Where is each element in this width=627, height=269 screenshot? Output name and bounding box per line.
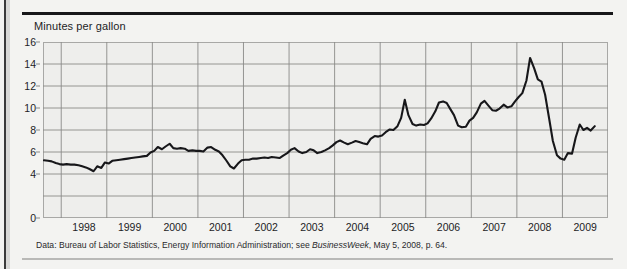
x-axis-tick-label-2006: 2006 [437,221,460,233]
y-axis-tick-label-16: 16 [24,36,36,48]
x-axis-labels: 1998199920002001200220032004200520062007… [43,221,608,237]
y-axis-tick-mark-12 [36,86,40,87]
grid-lines [43,42,608,218]
x-axis-tick-label-2004: 2004 [346,221,369,233]
bottom-rule-divider [22,258,613,260]
y-axis-tick-mark-0 [36,218,40,219]
chart-svg [43,42,608,218]
y-axis-tick-mark-8 [36,130,40,131]
y-axis-tick-mark-10 [36,108,40,109]
footnote-prefix: Data: Bureau of Labor Statistics, Energy… [36,240,312,250]
footnote-suffix: , May 5, 2008, p. 64. [369,240,447,250]
series-line-minutes-per-gallon [44,58,595,171]
y-axis-tick-label-10: 10 [24,102,36,114]
x-axis-tick-label-2007: 2007 [482,221,505,233]
x-axis-tick-label-2009: 2009 [574,221,597,233]
x-axis-tick-label-2008: 2008 [528,221,551,233]
y-axis-tick-label-12: 12 [24,80,36,92]
x-axis-tick-label-1999: 1999 [118,221,141,233]
x-axis-tick-label-2003: 2003 [300,221,323,233]
y-axis-labels: 046810121416 [0,42,40,218]
x-axis-tick-label-2000: 2000 [163,221,186,233]
y-axis-tick-mark-14 [36,64,40,65]
y-axis-tick-mark-4 [36,174,40,175]
y-axis-tick-mark-6 [36,152,40,153]
plot-area [43,42,608,218]
chart-title: Minutes per gallon [34,20,126,32]
y-axis-tick-mark-16 [36,42,40,43]
x-axis-tick-label-2005: 2005 [391,221,414,233]
x-axis-tick-label-2001: 2001 [209,221,232,233]
chart-footnote: Data: Bureau of Labor Statistics, Energy… [36,240,447,250]
data-line-group [44,58,595,171]
x-axis-tick-label-1998: 1998 [72,221,95,233]
chart-page: Minutes per gallon 046810121416 19981999… [0,0,627,269]
y-axis-tick-label-14: 14 [24,58,36,70]
footnote-source-italic: BusinessWeek [312,240,369,250]
x-axis-tick-label-2002: 2002 [255,221,278,233]
top-rule-divider [22,12,613,15]
